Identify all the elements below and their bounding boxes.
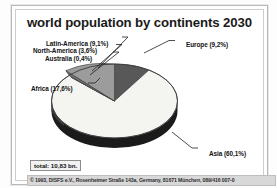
total-population-box: total: 10,83 bn. (30, 160, 81, 171)
pie-label-europe: Europe (9,2%) (186, 41, 228, 48)
pie-label-north-america: North-America (3,6%) (33, 47, 97, 54)
scanned-chart-page: world population by continents 2030 (0, 0, 277, 188)
chart-frame: world population by continents 2030 (11, 5, 268, 185)
pie-label-asia: Asia (60,1%) (209, 150, 246, 157)
pie-label-africa: Africa (17,6%) (31, 85, 73, 92)
copyright-footer-bar: © 1993, DISFS e.V., Rosenheimer Straße 1… (27, 175, 276, 186)
pie-label-australia: Australia (0,4%) (45, 55, 92, 62)
copyright-text: © 1993, DISFS e.V., Rosenheimer Straße 1… (30, 177, 234, 183)
pie-label-latin-america: Latin-America (9,1%) (46, 40, 108, 47)
